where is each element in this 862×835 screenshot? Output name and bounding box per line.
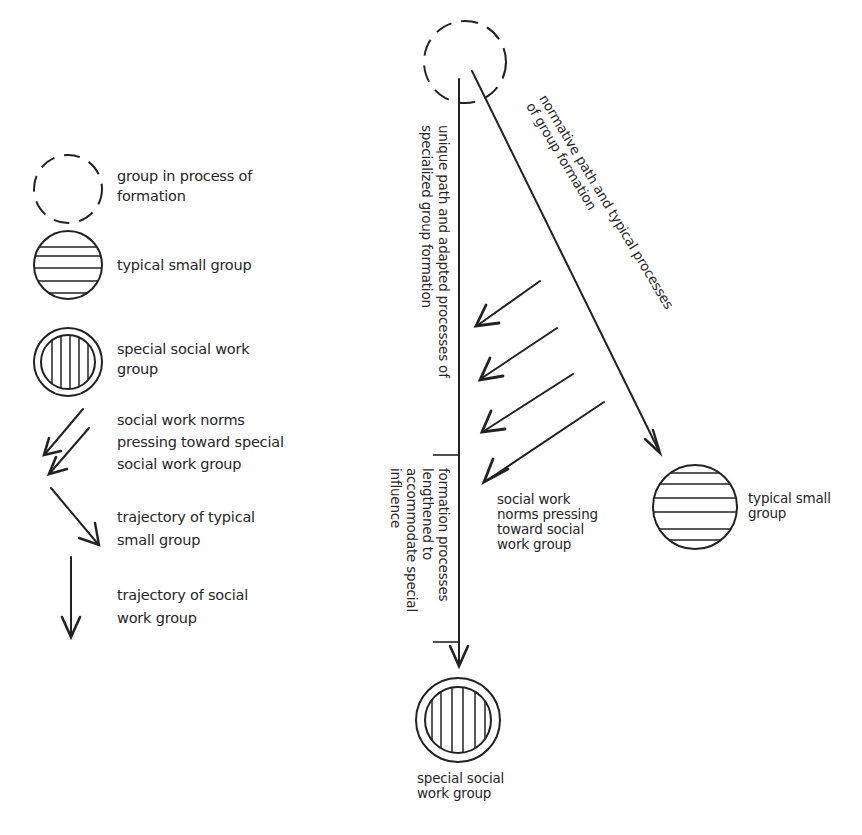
norms-pressing-arrows — [476, 281, 604, 482]
legend-label-special-group: special social work group — [117, 339, 249, 379]
formation-bracket-label: formation processes lengthened to accomm… — [388, 468, 452, 612]
legend-typical-group-icon — [30, 231, 106, 299]
legend-dashed-circle-icon — [34, 155, 102, 223]
legend-label-typical-trajectory: trajectory of typical small group — [117, 506, 255, 552]
pressing-arrow-2 — [480, 328, 557, 380]
pressing-arrow-3 — [482, 374, 573, 432]
legend-special-group-icon — [34, 328, 102, 396]
special-social-work-group-label: special social work group — [417, 771, 504, 801]
unique-path-label: unique path and adapted processes of spe… — [418, 125, 452, 378]
typical-small-group-circle — [650, 465, 740, 549]
legend-label-social-work-trajectory: trajectory of social work group — [117, 584, 248, 630]
legend-typical-trajectory-icon — [51, 488, 99, 545]
forming-group-dashed-circle — [424, 21, 506, 103]
typical-small-group-label: typical small group — [748, 491, 831, 521]
norms-pressing-label: social work norms pressing toward social… — [497, 492, 598, 552]
legend-social-work-trajectory-icon — [62, 557, 80, 637]
legend-label-forming-group: group in process of formation — [117, 166, 252, 206]
social-work-trajectory-arrow — [450, 79, 468, 666]
special-social-work-group-circle — [416, 678, 500, 762]
pressing-arrow-4 — [484, 402, 604, 482]
legend-pressing-arrows-icon — [44, 409, 89, 474]
pressing-arrow-1 — [476, 281, 540, 326]
legend-label-pressing-norms: social work norms pressing toward specia… — [117, 409, 284, 475]
legend-label-typical-group: typical small group — [117, 255, 252, 275]
